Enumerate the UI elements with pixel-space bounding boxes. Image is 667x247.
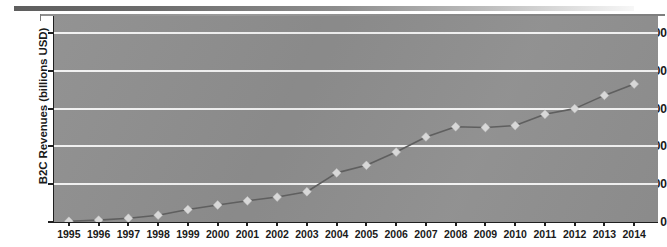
series-line-b2c-revenues xyxy=(69,84,634,221)
data-point-marker xyxy=(273,193,282,202)
data-point-marker xyxy=(600,91,609,100)
plot-area xyxy=(54,16,658,222)
x-axis-tick-label: 2013 xyxy=(593,228,616,240)
data-point-marker xyxy=(481,123,490,132)
data-point-marker xyxy=(570,104,579,113)
header-gradient-rule xyxy=(14,6,634,11)
data-point-marker xyxy=(64,217,73,222)
x-axis-tick-label: 2009 xyxy=(474,228,497,240)
x-axis-tick-label: 1996 xyxy=(87,228,110,240)
data-point-marker xyxy=(451,122,460,131)
data-point-marker xyxy=(541,110,550,119)
x-axis-tick-label: 2008 xyxy=(444,228,467,240)
data-series-layer xyxy=(54,16,658,222)
x-axis-tick-label: 1997 xyxy=(117,228,140,240)
data-point-marker xyxy=(183,205,192,214)
chart-figure: B2C Revenues (billions USD) 010020030040… xyxy=(0,0,667,247)
data-point-marker xyxy=(422,133,431,142)
x-axis-tick-label: 2000 xyxy=(206,228,229,240)
x-axis-tick-label: 2006 xyxy=(384,228,407,240)
data-point-marker xyxy=(243,196,252,205)
x-axis-tick-label: 1999 xyxy=(176,228,199,240)
data-point-marker xyxy=(362,161,371,170)
x-axis-tick-label: 2004 xyxy=(325,228,348,240)
data-point-marker xyxy=(94,216,103,222)
data-point-marker xyxy=(213,201,222,210)
x-axis-tick-label: 1995 xyxy=(57,228,80,240)
data-point-marker xyxy=(392,148,401,157)
x-axis-tick-label: 2002 xyxy=(265,228,288,240)
data-point-marker xyxy=(630,80,639,89)
x-axis-tick-label: 2012 xyxy=(563,228,586,240)
x-axis-tick-label: 2003 xyxy=(295,228,318,240)
series-markers-b2c-revenues xyxy=(64,80,638,222)
data-point-marker xyxy=(332,168,341,177)
x-axis-tick-label: 2007 xyxy=(414,228,437,240)
x-axis-tick-label: 2005 xyxy=(355,228,378,240)
x-axis-tick-label: 1998 xyxy=(146,228,169,240)
x-axis-tick-label: 2001 xyxy=(236,228,259,240)
data-point-marker xyxy=(154,211,163,220)
data-point-marker xyxy=(124,214,133,222)
x-axis-tick-label: 2010 xyxy=(503,228,526,240)
data-point-marker xyxy=(511,121,520,130)
data-point-marker xyxy=(303,187,312,196)
x-axis-tick-label: 2014 xyxy=(623,228,646,240)
x-axis-tick-label: 2011 xyxy=(534,228,557,240)
